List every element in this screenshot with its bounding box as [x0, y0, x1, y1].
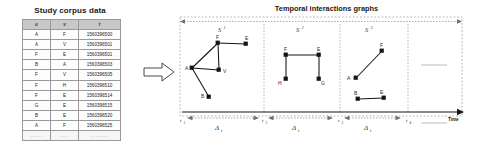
tick-t1: t 1	[180, 118, 186, 125]
interval-label-3-sub: t	[370, 128, 372, 133]
cell-v: F	[51, 30, 79, 40]
interval-span-1: Δ t	[187, 116, 259, 133]
node-h	[284, 77, 288, 81]
interval-label-1-base: Δ	[214, 124, 219, 132]
cell-u: F	[23, 90, 51, 100]
node-f	[216, 41, 220, 45]
edge-a-f	[192, 43, 218, 68]
table-row: F E 1560396501	[23, 50, 121, 60]
tick-t2: t 2	[262, 118, 268, 125]
cell-v: V	[51, 40, 79, 50]
edge-b-e	[358, 98, 384, 99]
tick-t2-sub: 2	[266, 121, 268, 125]
figure-root: Study corpus data u v t A F 1560396500 A…	[0, 0, 477, 143]
graph-s2: F E H G	[278, 46, 325, 86]
snapshot-label-s1: S 1	[218, 25, 226, 34]
edge-f-v	[218, 43, 219, 70]
column-header-t: t	[79, 20, 121, 30]
node-b	[356, 97, 360, 101]
cell-t: 1560396510	[79, 80, 121, 90]
table-ellipsis-row: ...... ...... ..........	[23, 131, 121, 141]
node-e	[317, 53, 321, 57]
tick-t3: t 3	[338, 118, 344, 125]
node-label-g: G	[321, 80, 325, 86]
snapshot-label-s2: S 2	[296, 25, 305, 34]
table-row: G E 1560396515	[23, 100, 121, 110]
cell-t: 1560396501	[79, 50, 121, 60]
interval-span-3: Δ t	[344, 116, 401, 133]
corpus-table: u v t A F 1560396500 A V 1560396501 F	[22, 19, 121, 141]
node-v	[217, 68, 221, 72]
cell-u: F	[23, 50, 51, 60]
tick-t1-base: t	[180, 118, 182, 123]
snapshot-label-s2-sup: 2	[302, 25, 305, 30]
node-label-h: H	[278, 80, 282, 86]
node-f	[380, 49, 384, 53]
node-label-e: E	[245, 35, 249, 41]
node-label-f: F	[216, 34, 219, 40]
cell-u: B	[23, 110, 51, 120]
edge-a-v	[192, 68, 219, 70]
node-label-v: V	[223, 68, 227, 74]
snapshot-label-s1-base: S	[218, 26, 222, 33]
cell-v-ellipsis: ......	[51, 131, 79, 141]
node-label-e: E	[317, 46, 321, 52]
column-header-v: v	[51, 20, 79, 30]
node-f	[284, 53, 288, 57]
cell-t: 1560396505	[79, 70, 121, 80]
tick-t4-sub: 4	[410, 121, 412, 125]
node-a	[354, 76, 358, 80]
interval-label-2-sub: t	[298, 128, 300, 133]
temporal-graphs-panel: Temporal interactions graphs S 1 S 2	[176, 0, 477, 143]
tick-t3-sub: 3	[342, 121, 344, 125]
snapshot-label-s3: S 3	[365, 25, 374, 34]
cell-t: 1560396515	[79, 100, 121, 110]
cell-v: E	[51, 110, 79, 120]
interval-label-1-sub: t	[221, 128, 223, 133]
outer-dashed-frame	[180, 17, 462, 116]
cell-t-ellipsis: ..........	[79, 131, 121, 141]
node-label-a: A	[185, 65, 189, 71]
cell-v: V	[51, 70, 79, 80]
full-range-span-arrow	[180, 19, 462, 23]
cell-v: F	[51, 120, 79, 130]
table-row: A F 1560396525	[23, 120, 121, 130]
cell-u: A	[23, 40, 51, 50]
node-label-e: E	[380, 89, 384, 95]
study-corpus-panel: Study corpus data u v t A F 1560396500 A…	[0, 0, 140, 143]
table-header-row: u v t	[23, 20, 121, 30]
snapshot-label-s1-sup: 1	[224, 25, 226, 30]
column-header-u: u	[23, 20, 51, 30]
node-label-a: A	[347, 75, 351, 81]
edge-a-f	[356, 51, 382, 78]
cell-u: F	[23, 80, 51, 90]
cell-u: A	[23, 120, 51, 130]
interval-label-3-base: Δ	[363, 124, 368, 132]
cell-v: E	[51, 90, 79, 100]
table-row: A V 1560396501	[23, 40, 121, 50]
node-label-f: F	[380, 42, 383, 48]
table-row: F H 1560396510	[23, 80, 121, 90]
snapshot-label-s2-base: S	[296, 26, 300, 33]
cell-u: F	[23, 70, 51, 80]
node-label-f: F	[284, 46, 287, 52]
cell-u: G	[23, 100, 51, 110]
node-a	[190, 66, 194, 70]
edge-f-e	[218, 43, 246, 44]
node-label-b: B	[354, 90, 358, 96]
tick-t4-base: t	[406, 118, 408, 123]
cell-t: 1560396500	[79, 30, 121, 40]
tick-t3-base: t	[338, 118, 340, 123]
snapshot-label-s3-base: S	[365, 26, 369, 33]
temporal-graphs-canvas: S 1 S 2 S 3	[176, 0, 477, 143]
table-row: F E 1560396514	[23, 90, 121, 100]
cell-t: 1560396520	[79, 110, 121, 120]
corpus-title: Study corpus data	[0, 6, 140, 15]
table-row: F V 1560396505	[23, 70, 121, 80]
cell-v: E	[51, 50, 79, 60]
cell-t: 1560396501	[79, 40, 121, 50]
right-block-arrow-icon	[143, 60, 176, 84]
graph-s1: A F E V B	[185, 34, 249, 99]
cell-v: H	[51, 80, 79, 90]
table-row: B A 1560396503	[23, 60, 121, 70]
